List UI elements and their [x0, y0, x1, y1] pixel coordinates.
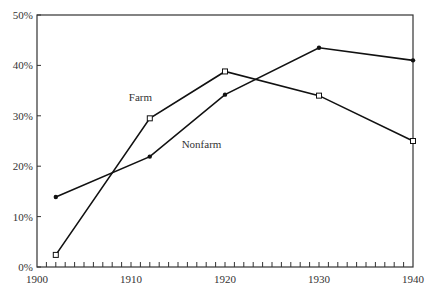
square-marker	[53, 252, 58, 257]
x-axis-ticks: 19001910192019301940	[26, 262, 425, 285]
dot-marker	[54, 195, 58, 199]
series-line-farm	[56, 71, 413, 254]
square-marker	[147, 116, 152, 121]
series-line-nonfarm	[56, 48, 413, 197]
y-tick-label: 40%	[13, 59, 33, 71]
y-tick-label: 50%	[13, 9, 33, 21]
chart-series	[53, 46, 415, 258]
series-label-nonfarm: Nonfarm	[182, 138, 222, 150]
square-marker	[317, 93, 322, 98]
dot-marker	[317, 46, 321, 50]
x-tick-label: 1930	[308, 273, 331, 285]
dot-marker	[148, 154, 152, 158]
x-tick-label: 1910	[120, 273, 143, 285]
line-chart: 0%10%20%30%40%50% 19001910192019301940 F…	[0, 0, 433, 292]
series-labels: FarmNonfarm	[129, 91, 222, 150]
y-tick-label: 30%	[13, 110, 33, 122]
y-tick-label: 0%	[18, 261, 33, 273]
series-label-farm: Farm	[129, 91, 153, 103]
dot-marker	[223, 92, 227, 96]
x-tick-label: 1920	[214, 273, 237, 285]
x-tick-label: 1900	[26, 273, 49, 285]
y-tick-label: 10%	[13, 211, 33, 223]
x-tick-label: 1940	[402, 273, 425, 285]
dot-marker	[411, 58, 415, 62]
square-marker	[411, 139, 416, 144]
square-marker	[223, 69, 228, 74]
y-tick-label: 20%	[13, 160, 33, 172]
